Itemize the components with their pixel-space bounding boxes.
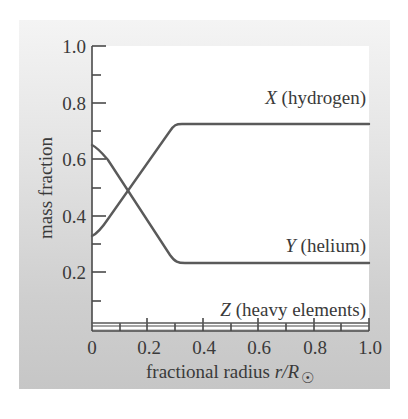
- heavy-elements-name: (heavy elements): [231, 299, 366, 321]
- x-axis-title: fractional radius r/R☉: [146, 361, 314, 386]
- x-tick-label: 0.4: [192, 337, 216, 358]
- hydrogen-label: X (hydrogen): [264, 87, 366, 109]
- heavy-elements-label: Z (heavy elements): [220, 299, 366, 321]
- x-axis-title-variable: r/R: [275, 361, 300, 382]
- sun-symbol-icon: ☉: [301, 370, 314, 386]
- y-tick-label: 0.8: [62, 93, 86, 114]
- y-tick-label: 0.2: [62, 262, 86, 283]
- y-tick-label: 0.4: [62, 206, 86, 227]
- x-tick-label: 0.8: [303, 337, 327, 358]
- x-axis-title-prefix: fractional radius: [146, 361, 275, 382]
- y-tick-label: 0.6: [62, 149, 86, 170]
- helium-name: (helium): [296, 235, 366, 257]
- helium-label: Y (helium): [285, 235, 366, 257]
- x-tick-label: 0: [87, 337, 97, 358]
- x-tick-label: 0.2: [137, 337, 161, 358]
- hydrogen-name: (hydrogen): [277, 87, 366, 109]
- x-tick-label: 0.6: [247, 337, 271, 358]
- x-tick-label: 1.0: [358, 337, 382, 358]
- y-tick-label: 1.0: [62, 36, 86, 57]
- mass-fraction-chart: 1.0 0.8 0.6 0.4 0.2 0 0.2 0.4 0.6 0.8 1.…: [0, 0, 408, 419]
- y-tick-labels: 1.0 0.8 0.6 0.4 0.2: [62, 36, 86, 283]
- heavy-elements-symbol: Z: [220, 299, 231, 320]
- y-axis-title: mass fraction: [35, 137, 56, 239]
- x-tick-labels: 0 0.2 0.4 0.6 0.8 1.0: [87, 337, 382, 358]
